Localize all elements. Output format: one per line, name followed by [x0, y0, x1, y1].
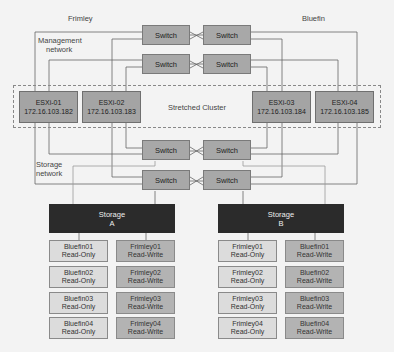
datastore-a-frimley01[interactable]: Frimley01Read-Write: [116, 240, 175, 262]
datastore-name: Bluefin01: [300, 243, 329, 251]
storage-switch-frimley-1[interactable]: Switch: [142, 140, 190, 160]
mgmt-switch-bluefin-2[interactable]: Switch: [203, 54, 251, 74]
site-label-frimley: Frimley: [68, 14, 93, 23]
mgmt-switch-frimley-2[interactable]: Switch: [142, 54, 190, 74]
datastore-mode: Read-Only: [231, 328, 264, 336]
storage-array-a[interactable]: Storage A: [49, 204, 175, 233]
datastore-mode: Read-Write: [297, 277, 332, 285]
datastore-name: Frimley01: [232, 243, 263, 251]
datastore-a-bluefin03[interactable]: Bluefin03Read-Only: [49, 292, 108, 314]
host-esxi-02[interactable]: ESXi-02 172.16.103.183: [82, 91, 141, 123]
datastore-a-bluefin01[interactable]: Bluefin01Read-Only: [49, 240, 108, 262]
host-esxi-01[interactable]: ESXi-01 172.16.103.182: [19, 91, 78, 123]
host-esxi-03[interactable]: ESXi-03 172.16.103.184: [252, 91, 311, 123]
datastore-a-frimley04[interactable]: Frimley04Read-Write: [116, 317, 175, 339]
storage-id: B: [278, 219, 283, 228]
datastore-mode: Read-Write: [128, 328, 163, 336]
datastore-mode: Read-Only: [231, 251, 264, 259]
storage-array-b[interactable]: Storage B: [218, 204, 344, 233]
datastore-name: Frimley04: [130, 320, 161, 328]
host-name: ESXi-03: [269, 98, 295, 107]
storage-switch-frimley-2[interactable]: Switch: [142, 170, 190, 190]
storage-title: Storage: [99, 210, 125, 219]
datastore-mode: Read-Write: [128, 303, 163, 311]
datastore-name: Bluefin01: [64, 243, 93, 251]
datastore-mode: Read-Only: [62, 277, 95, 285]
datastore-name: Bluefin03: [64, 295, 93, 303]
datastore-name: Frimley03: [130, 295, 161, 303]
datastore-b-frimley04[interactable]: Frimley04Read-Only: [218, 317, 277, 339]
datastore-mode: Read-Write: [128, 277, 163, 285]
storage-network-label-line1: Storage: [36, 160, 62, 169]
storage-title: Storage: [268, 210, 294, 219]
management-network-label-line1: Management: [38, 36, 82, 45]
datastore-name: Bluefin04: [64, 320, 93, 328]
mgmt-switch-bluefin-1[interactable]: Switch: [203, 25, 251, 45]
stretched-cluster-label: Stretched Cluster: [168, 103, 226, 112]
storage-network-label: Storage network: [36, 160, 62, 178]
datastore-mode: Read-Only: [231, 277, 264, 285]
datastore-a-bluefin04[interactable]: Bluefin04Read-Only: [49, 317, 108, 339]
datastore-mode: Read-Write: [128, 251, 163, 259]
datastore-name: Frimley02: [130, 269, 161, 277]
host-name: ESXi-02: [99, 98, 125, 107]
storage-id: A: [109, 219, 114, 228]
host-ip: 172.16.103.184: [257, 107, 306, 116]
datastore-b-bluefin02[interactable]: Bluefin02Read-Write: [285, 266, 344, 288]
datastore-name: Frimley04: [232, 320, 263, 328]
datastore-mode: Read-Only: [62, 303, 95, 311]
datastore-name: Bluefin03: [300, 295, 329, 303]
host-esxi-04[interactable]: ESXi-04 172.16.103.185: [315, 91, 374, 123]
host-ip: 172.16.103.183: [87, 107, 136, 116]
datastore-mode: Read-Write: [297, 328, 332, 336]
datastore-mode: Read-Only: [231, 303, 264, 311]
datastore-mode: Read-Only: [62, 328, 95, 336]
storage-network-label-line2: network: [36, 169, 62, 178]
datastore-name: Frimley03: [232, 295, 263, 303]
datastore-b-bluefin01[interactable]: Bluefin01Read-Write: [285, 240, 344, 262]
datastore-name: Bluefin02: [64, 269, 93, 277]
datastore-a-frimley02[interactable]: Frimley02Read-Write: [116, 266, 175, 288]
host-ip: 172.16.103.182: [24, 107, 73, 116]
datastore-a-frimley03[interactable]: Frimley03Read-Write: [116, 292, 175, 314]
datastore-a-bluefin02[interactable]: Bluefin02Read-Only: [49, 266, 108, 288]
storage-switch-bluefin-1[interactable]: Switch: [203, 140, 251, 160]
datastore-name: Bluefin02: [300, 269, 329, 277]
site-label-bluefin: Bluefin: [302, 14, 325, 23]
management-network-label-line2: network: [38, 45, 82, 54]
datastore-b-bluefin04[interactable]: Bluefin04Read-Write: [285, 317, 344, 339]
datastore-b-frimley02[interactable]: Frimley02Read-Only: [218, 266, 277, 288]
host-name: ESXi-04: [332, 98, 358, 107]
datastore-mode: Read-Only: [62, 251, 95, 259]
datastore-name: Frimley02: [232, 269, 263, 277]
datastore-mode: Read-Write: [297, 251, 332, 259]
datastore-b-frimley03[interactable]: Frimley03Read-Only: [218, 292, 277, 314]
datastore-name: Frimley01: [130, 243, 161, 251]
storage-switch-bluefin-2[interactable]: Switch: [203, 170, 251, 190]
datastore-name: Bluefin04: [300, 320, 329, 328]
management-network-label: Management network: [38, 36, 82, 54]
datastore-b-frimley01[interactable]: Frimley01Read-Only: [218, 240, 277, 262]
datastore-b-bluefin03[interactable]: Bluefin03Read-Write: [285, 292, 344, 314]
host-ip: 172.16.103.185: [320, 107, 369, 116]
datastore-mode: Read-Write: [297, 303, 332, 311]
host-name: ESXi-01: [36, 98, 62, 107]
mgmt-switch-frimley-1[interactable]: Switch: [142, 25, 190, 45]
